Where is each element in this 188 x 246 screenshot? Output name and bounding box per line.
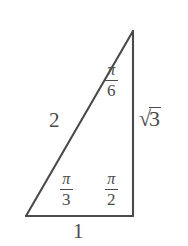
fraction-numerator: π [105, 171, 118, 188]
angle-label-top: π 6 [105, 62, 118, 100]
fraction-numerator: π [60, 171, 73, 188]
radical-expression: √3 [139, 107, 161, 130]
fraction-denominator: 3 [60, 190, 73, 210]
geometry-figure: π 6 √3 2 π 3 π 2 1 [0, 0, 188, 246]
side-label-base: 1 [73, 221, 84, 242]
fraction-denominator: 2 [105, 190, 118, 210]
fraction-pi-over-2: π 2 [105, 171, 118, 209]
fraction-pi-over-3: π 3 [60, 171, 73, 209]
angle-label-bottom-left: π 3 [60, 171, 73, 209]
fraction-numerator: π [105, 62, 118, 79]
fraction-denominator: 6 [105, 81, 118, 101]
side-label-vertical: √3 [139, 107, 161, 130]
side-label-hypotenuse: 2 [49, 110, 60, 131]
radical-radicand: 3 [149, 107, 161, 130]
angle-label-bottom-right: π 2 [105, 171, 118, 209]
fraction-pi-over-6: π 6 [105, 62, 118, 100]
